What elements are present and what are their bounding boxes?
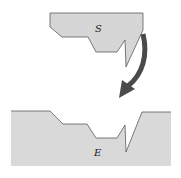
shape-s-body (50, 13, 143, 67)
shape-e-body (11, 111, 171, 166)
shape-s-label: S (95, 23, 102, 34)
puzzle-diagram: S E (0, 0, 181, 178)
shape-e: E (11, 111, 171, 166)
shape-s: S (50, 13, 143, 67)
shape-e-label: E (93, 147, 102, 158)
